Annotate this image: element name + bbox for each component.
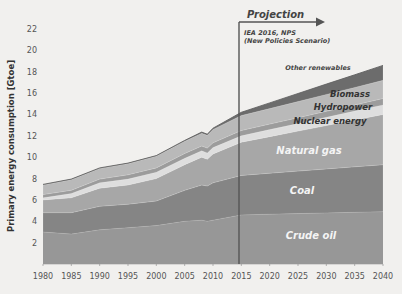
x-tick-label: 2015 <box>231 272 251 281</box>
x-tick-label: 2025 <box>288 272 308 281</box>
x-tick-label: 2010 <box>203 272 223 281</box>
energy-consumption-chart: 1980198519901995200020052010201520202025… <box>0 0 402 294</box>
series-label-hydropower: Hydropower <box>314 102 373 112</box>
y-tick-label: 8 <box>32 175 37 184</box>
y-tick-label: 2 <box>32 239 37 248</box>
source-label-line1: IEA 2016, NPS <box>244 29 296 37</box>
y-tick-label: 22 <box>27 25 37 34</box>
series-label-crude-oil: Crude oil <box>286 230 337 241</box>
x-tick-label: 1995 <box>118 272 138 281</box>
y-tick-label: 4 <box>32 217 37 226</box>
series-label-biomass: Biomass <box>330 89 370 99</box>
x-tick-label: 2005 <box>174 272 194 281</box>
x-axis: 1980198519901995200020052010201520202025… <box>33 264 393 281</box>
y-tick-label: 6 <box>32 196 37 205</box>
y-tick-label: 18 <box>27 68 37 77</box>
x-tick-label: 1990 <box>89 272 109 281</box>
x-tick-label: 1985 <box>61 272 81 281</box>
series-label-coal: Coal <box>290 185 315 196</box>
y-tick-label: 20 <box>27 46 37 55</box>
source-label-line2: (New Policies Scenario) <box>244 37 330 45</box>
x-tick-label: 2020 <box>259 272 279 281</box>
y-tick-label: 10 <box>27 153 37 162</box>
x-tick-label: 2030 <box>316 272 336 281</box>
x-tick-label: 2000 <box>146 272 166 281</box>
projection-label: Projection <box>247 9 304 20</box>
x-tick-label: 2035 <box>344 272 364 281</box>
series-label-other-renewables: Other renewables <box>285 64 350 72</box>
y-tick-label: 14 <box>27 110 37 119</box>
series-label-nuclear-energy: Nuclear energy <box>293 116 367 126</box>
arrow-right-icon <box>316 18 325 27</box>
series-label-natural-gas: Natural gas <box>276 145 342 156</box>
x-tick-label: 1980 <box>33 272 53 281</box>
y-axis-label: Primary energy consumption [Gtoe] <box>6 60 16 232</box>
x-tick-label: 2040 <box>373 272 393 281</box>
y-axis: 246810121416182022 <box>27 25 37 248</box>
y-tick-label: 16 <box>27 89 37 98</box>
y-tick-label: 12 <box>27 132 37 141</box>
